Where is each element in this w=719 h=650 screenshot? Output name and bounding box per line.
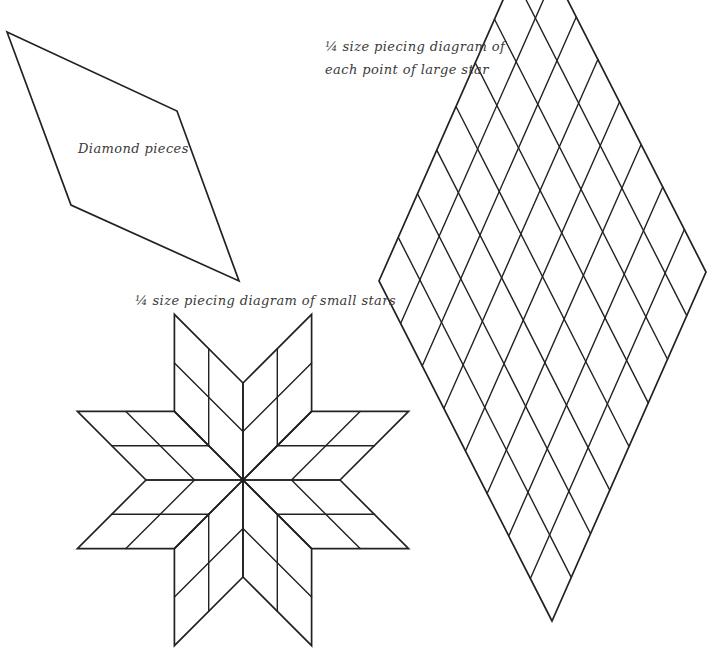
- large-star-point-grid: [379, 0, 706, 621]
- grid-line: [495, 19, 668, 359]
- diamond-piece-label: Diamond pieces: [77, 141, 189, 156]
- diamond-piece-template: Diamond pieces: [7, 32, 239, 281]
- star-point: [243, 480, 312, 646]
- small-star: [77, 314, 408, 645]
- star-point: [243, 314, 312, 480]
- star-point: [174, 314, 243, 480]
- diamond-piece-outline: [7, 32, 239, 281]
- star-point: [243, 480, 409, 549]
- small-star-caption: ¼ size piecing diagram of small stars: [135, 293, 396, 308]
- grid-line: [475, 63, 648, 403]
- star-point: [77, 480, 243, 549]
- grid-line: [514, 0, 687, 316]
- large-star-caption-line1: ¼ size piecing diagram of: [325, 39, 507, 54]
- large-star-caption: ¼ size piecing diagram of each point of …: [325, 39, 507, 77]
- large-star-caption-line2: each point of large star: [325, 62, 489, 77]
- grid-line: [444, 60, 598, 409]
- star-point: [243, 411, 409, 480]
- grid-line: [456, 107, 629, 447]
- piecing-diagram: Diamond pieces ¼ size piecing diagram of…: [0, 0, 719, 650]
- star-point: [174, 480, 243, 646]
- star-point: [77, 411, 243, 480]
